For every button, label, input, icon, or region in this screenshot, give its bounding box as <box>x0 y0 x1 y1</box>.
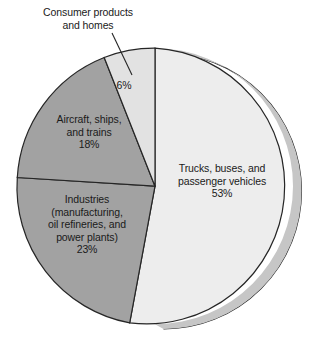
pie-chart-figure: Consumer products and homes 6% Aircraft,… <box>0 0 317 348</box>
pie-slice-industries <box>17 178 155 323</box>
pie-chart-svg <box>0 0 317 348</box>
